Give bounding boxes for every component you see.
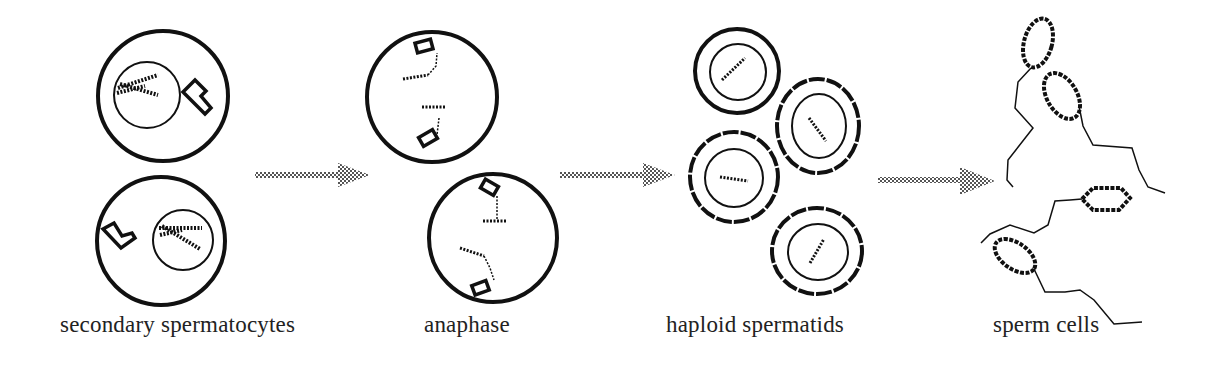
secondary-spermatocyte-cell-top: [98, 31, 228, 161]
stippled-arrow-right-icon: [560, 163, 675, 187]
stage-label-haploid-spermatids: haploid spermatids: [666, 312, 844, 338]
centriole-icon: [183, 80, 211, 114]
centriole-icon: [103, 223, 135, 248]
anaphase-cell-bottom: [429, 174, 557, 302]
secondary-spermatocyte-cell-bottom: [97, 177, 225, 305]
spermatid-cell-1: [695, 29, 779, 113]
anaphase-cell-top: [367, 32, 497, 162]
crossed-chromosomes-icon: [159, 226, 202, 249]
stippled-arrow-right-icon: [878, 167, 995, 195]
spermatid-cell-4: [772, 208, 862, 294]
stippled-arrow-right-icon: [255, 163, 370, 187]
sperm-cell-1: [1007, 15, 1058, 187]
stage-label-sperm-cells: sperm cells: [993, 312, 1099, 338]
spermatid-cell-2: [777, 79, 859, 173]
crossed-chromosomes-icon: [117, 75, 158, 95]
stage-label-anaphase: anaphase: [424, 312, 510, 338]
stage-label-secondary-spermatocytes: secondary spermatocytes: [60, 312, 295, 338]
spermatid-cell-3: [690, 132, 778, 222]
sperm-cell-4: [989, 232, 1142, 324]
sperm-cell-3: [981, 188, 1130, 243]
sperm-cell-2: [1037, 67, 1165, 193]
